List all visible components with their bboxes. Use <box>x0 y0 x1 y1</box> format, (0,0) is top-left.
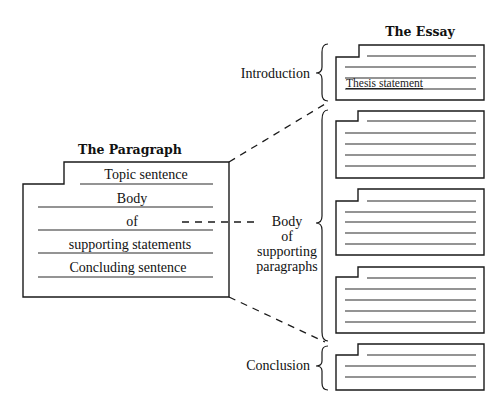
concluding-sentence-label: Concluding sentence <box>69 260 186 275</box>
body-paragraph-box-1 <box>336 111 484 178</box>
introduction-box: Thesis statement <box>336 45 484 100</box>
body-label: Body <box>117 191 147 206</box>
essay-title: The Essay <box>385 24 455 39</box>
conclusion-label: Conclusion <box>246 358 310 373</box>
paragraph-box: Topic sentence Body of supporting statem… <box>23 162 229 297</box>
conclusion-brace <box>316 346 328 390</box>
body-brace <box>316 110 328 341</box>
body-paragraph-box-2 <box>336 189 484 255</box>
introduction-brace <box>316 44 328 101</box>
topic-sentence-label: Topic sentence <box>104 167 187 182</box>
introduction-label: Introduction <box>241 66 310 81</box>
body-label-2: of <box>281 229 293 244</box>
body-label-3: supporting <box>257 244 317 259</box>
of-label: of <box>126 214 138 229</box>
paragraph-title: The Paragraph <box>78 142 182 157</box>
body-label-4: paragraphs <box>256 259 317 274</box>
conclusion-box <box>336 344 484 390</box>
thesis-statement-label: Thesis statement <box>346 77 424 89</box>
body-label-1: Body <box>272 214 302 229</box>
body-paragraph-box-3 <box>336 267 484 333</box>
supporting-statements-label: supporting statements <box>69 237 192 252</box>
